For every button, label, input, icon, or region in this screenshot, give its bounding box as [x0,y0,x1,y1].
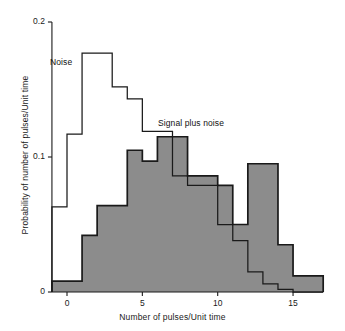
histogram-plot [0,0,345,331]
y-tick-label: 0.2 [0,16,45,26]
x-tick-label: 15 [273,298,313,308]
signal-plus-noise-series-label: Signal plus noise [158,118,224,128]
y-tick-label: 0.1 [0,151,45,161]
x-tick-label: 10 [198,298,238,308]
x-tick-label: 0 [47,298,87,308]
x-axis-title: Number of pulses/Unit time [0,312,345,322]
y-tick-label: 0 [0,286,45,296]
x-tick-label: 5 [122,298,162,308]
chart-figure: Probability of number of pulses/Unit tim… [0,0,345,331]
signal-plus-noise-series [52,137,323,292]
noise-series-label: Noise [50,57,72,67]
